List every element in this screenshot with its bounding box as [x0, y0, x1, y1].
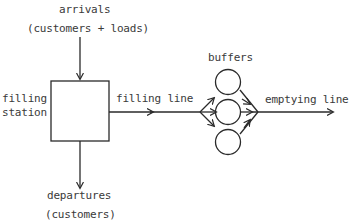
buffers-label: buffers	[208, 51, 253, 64]
fork-bottom	[200, 112, 214, 126]
filling-station-label-2: station	[2, 106, 47, 119]
filling-station-label-1: filling	[2, 92, 47, 105]
arrivals-detail-label: (customers + loads)	[27, 22, 149, 35]
filling-line-label: filling line	[116, 92, 193, 105]
arrivals-label: arrivals	[59, 3, 110, 16]
departures-detail-label: (customers)	[45, 208, 116, 221]
fork-top	[200, 98, 214, 112]
merge-bottom	[240, 112, 258, 134]
merge-top	[240, 90, 258, 112]
emptying-line-label: emptying line	[265, 93, 349, 106]
departures-label: departures	[47, 189, 111, 202]
filling-station-box	[51, 81, 109, 141]
buffer-circle-3	[216, 130, 241, 155]
buffer-circle-1	[216, 70, 241, 95]
buffer-circle-2	[216, 100, 241, 125]
